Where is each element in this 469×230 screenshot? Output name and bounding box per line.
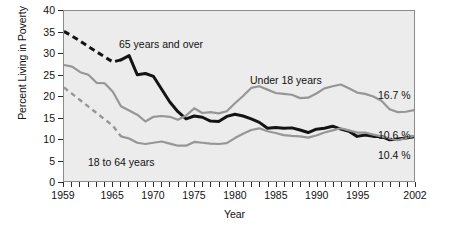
x-tick-label-1995: 1995 (346, 190, 369, 201)
x-tick-mark (399, 182, 400, 187)
x-tick-mark (145, 182, 146, 187)
x-tick-mark (374, 182, 375, 187)
x-tick-mark (104, 182, 105, 187)
label-under-18: Under 18 years (250, 75, 322, 86)
x-tick-label-1965: 1965 (100, 190, 123, 201)
value-10-4: 10.4 % (378, 150, 411, 161)
x-tick-mark (382, 182, 383, 187)
value-10-6: 10.6 % (378, 130, 411, 141)
y-tick-label-40: 40 (25, 5, 55, 15)
y-tick-label-30: 30 (25, 48, 55, 58)
value-16-7: 16.7 % (378, 90, 411, 101)
x-tick-mark (300, 182, 301, 187)
y-tick-label-35: 35 (25, 27, 55, 37)
x-tick-mark (186, 182, 187, 187)
x-tick-mark (178, 182, 179, 187)
x-tick-mark (137, 182, 138, 187)
x-tick-mark (79, 182, 80, 187)
x-tick-mark (202, 182, 203, 187)
x-tick-mark (112, 182, 113, 187)
poverty-rate-chart-figure: Percent Living in Poverty 05101520253035… (0, 0, 469, 230)
y-tick-label-25: 25 (25, 70, 55, 80)
x-axis-title: Year (0, 208, 469, 220)
x-tick-label-1985: 1985 (264, 190, 287, 201)
x-tick-label-1975: 1975 (182, 190, 205, 201)
series-path-0 (121, 56, 414, 140)
x-tick-mark (227, 182, 228, 187)
x-tick-mark (341, 182, 342, 187)
x-tick-mark (407, 182, 408, 187)
x-tick-mark (210, 182, 211, 187)
x-tick-mark (415, 182, 416, 187)
x-tick-label-1990: 1990 (305, 190, 328, 201)
x-tick-mark (390, 182, 391, 187)
series-path-1 (64, 65, 414, 122)
x-tick-mark (333, 182, 334, 187)
x-tick-mark (268, 182, 269, 187)
x-tick-mark (120, 182, 121, 187)
y-tick-label-5: 5 (25, 156, 55, 166)
label-18-64: 18 to 64 years (88, 157, 155, 168)
x-tick-mark (325, 182, 326, 187)
x-tick-mark (251, 182, 252, 187)
x-tick-mark (317, 182, 318, 187)
x-tick-mark (259, 182, 260, 187)
x-tick-mark (128, 182, 129, 187)
x-tick-mark (284, 182, 285, 187)
x-tick-mark (358, 182, 359, 187)
x-tick-mark (153, 182, 154, 187)
label-65-over: 65 years and over (119, 39, 203, 50)
x-tick-mark (309, 182, 310, 187)
x-tick-mark (292, 182, 293, 187)
series-path-dashed-2 (64, 88, 121, 137)
y-tick-label-0: 0 (25, 177, 55, 187)
y-tick-label-20: 20 (25, 91, 55, 101)
x-tick-mark (194, 182, 195, 187)
x-tick-label-2002: 2002 (403, 190, 426, 201)
x-tick-mark (276, 182, 277, 187)
x-tick-mark (169, 182, 170, 187)
x-tick-mark (235, 182, 236, 187)
x-tick-mark (71, 182, 72, 187)
x-tick-mark (350, 182, 351, 187)
series-paths-group (64, 31, 414, 145)
x-tick-label-1970: 1970 (141, 190, 164, 201)
x-tick-mark (63, 182, 64, 187)
y-tick-label-15: 15 (25, 113, 55, 123)
x-tick-mark (96, 182, 97, 187)
x-tick-mark (88, 182, 89, 187)
series-path-dashed-0 (64, 31, 121, 62)
x-tick-mark (219, 182, 220, 187)
x-tick-mark (366, 182, 367, 187)
x-tick-label-1980: 1980 (223, 190, 246, 201)
y-tick-label-10: 10 (25, 134, 55, 144)
x-tick-label-1959: 1959 (51, 190, 74, 201)
x-tick-mark (243, 182, 244, 187)
x-tick-mark (161, 182, 162, 187)
